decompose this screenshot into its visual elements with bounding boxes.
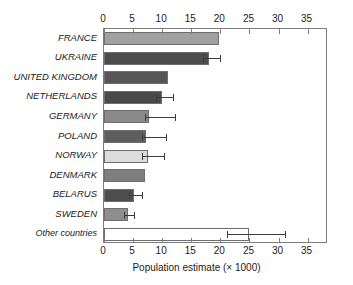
error-bar-cap — [285, 231, 286, 238]
x-tick-label-bottom: 10 — [149, 245, 173, 257]
category-label: NORWAY — [0, 150, 97, 160]
error-bar-cap — [124, 212, 125, 219]
x-tick-label-bottom: 30 — [266, 245, 290, 257]
category-label: FRANCE — [0, 33, 97, 43]
error-bar-cap — [142, 134, 143, 141]
axis-tick-bottom — [162, 238, 163, 243]
x-tick-label-top: 25 — [236, 13, 260, 25]
category-label: GERMANY — [0, 111, 97, 121]
error-bar-cap — [203, 55, 204, 62]
x-tick-label-top: 20 — [207, 13, 231, 25]
bar — [104, 130, 146, 143]
bar-chart: 05101520253035 FRANCEUKRAINEUNITED KINGD… — [0, 0, 353, 285]
x-tick-label-top: 35 — [295, 13, 319, 25]
error-bar-cap — [175, 114, 176, 121]
category-label: NETHERLANDS — [0, 91, 97, 101]
category-label: UKRAINE — [0, 52, 97, 62]
bar — [104, 71, 168, 84]
x-axis-title: Population estimate (× 1000) — [0, 262, 353, 273]
x-tick-label-bottom: 35 — [295, 245, 319, 257]
x-tick-label-top: 30 — [266, 13, 290, 25]
error-bar — [142, 156, 164, 157]
axis-tick-bottom — [133, 238, 134, 243]
category-label: POLAND — [0, 131, 97, 141]
axis-tick-top — [162, 29, 163, 34]
error-bar-cap — [173, 94, 174, 101]
axis-tick-top — [249, 29, 250, 34]
error-bar-cap — [142, 153, 143, 160]
bar — [104, 110, 149, 123]
x-tick-label-top: 5 — [120, 13, 144, 25]
error-bar-cap — [134, 212, 135, 219]
x-tick-label-bottom: 0 — [91, 245, 115, 257]
axis-tick-bottom — [249, 238, 250, 243]
axis-tick-bottom — [104, 238, 105, 243]
x-tick-label-top: 10 — [149, 13, 173, 25]
category-label: UNITED KINGDOM — [0, 72, 97, 82]
error-bar-cap — [129, 192, 130, 199]
error-bar-cap — [156, 94, 157, 101]
axis-tick-bottom — [191, 238, 192, 243]
axis-tick-top — [133, 29, 134, 34]
error-bar-cap — [220, 55, 221, 62]
bar — [104, 32, 219, 45]
error-bar — [142, 137, 165, 138]
error-bar — [145, 117, 175, 118]
error-bar-cap — [145, 114, 146, 121]
bar — [104, 169, 145, 182]
axis-tick-top — [308, 29, 309, 34]
error-bar — [124, 215, 134, 216]
axis-tick-bottom — [279, 238, 280, 243]
error-bar-cap — [142, 192, 143, 199]
bar — [104, 52, 209, 65]
axis-tick-bottom — [308, 238, 309, 243]
category-label: SWEDEN — [0, 209, 97, 219]
error-bar-cap — [227, 231, 228, 238]
category-label: DENMARK — [0, 170, 97, 180]
error-bar — [156, 97, 172, 98]
error-bar — [129, 195, 142, 196]
axis-tick-top — [220, 29, 221, 34]
x-tick-label-bottom: 5 — [120, 245, 144, 257]
error-bar-cap — [164, 153, 165, 160]
x-tick-label-bottom: 25 — [236, 245, 260, 257]
error-bar-cap — [166, 134, 167, 141]
axis-tick-bottom — [220, 238, 221, 243]
bar — [104, 91, 162, 104]
axis-tick-top — [104, 29, 105, 34]
x-tick-label-top: 15 — [178, 13, 202, 25]
axis-tick-top — [279, 29, 280, 34]
x-tick-label-bottom: 15 — [178, 245, 202, 257]
error-bar — [203, 58, 220, 59]
plot-area — [103, 28, 327, 243]
error-bar — [227, 234, 285, 235]
category-label: BELARUS — [0, 189, 97, 199]
category-label: Other countries — [0, 228, 97, 238]
x-tick-label-bottom: 20 — [207, 245, 231, 257]
x-tick-label-top: 0 — [91, 13, 115, 25]
axis-tick-top — [191, 29, 192, 34]
